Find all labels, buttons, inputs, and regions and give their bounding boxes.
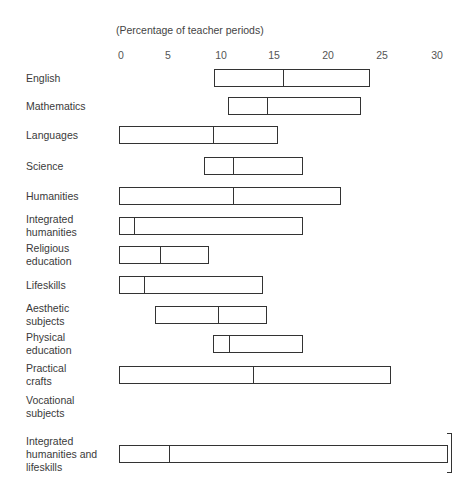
range-box	[213, 335, 303, 353]
range-box	[119, 445, 448, 463]
x-tick-label: 15	[268, 49, 280, 61]
range-box	[214, 69, 370, 87]
row-label: Vocational subjects	[26, 394, 106, 420]
range-box	[119, 126, 278, 144]
row-label: Physical education	[26, 331, 106, 357]
median-line	[218, 307, 219, 323]
row-label: Languages	[26, 129, 106, 142]
range-box	[119, 187, 341, 205]
range-box	[119, 366, 391, 384]
median-line	[144, 277, 145, 293]
range-box	[119, 217, 303, 235]
row-label: Integrated humanities and lifeskills	[26, 435, 106, 474]
median-line	[267, 98, 268, 114]
row-label: Lifeskills	[26, 279, 106, 292]
median-line	[233, 158, 234, 174]
median-line	[213, 127, 214, 143]
range-box	[119, 246, 209, 264]
median-line	[160, 247, 161, 263]
range-box	[119, 276, 263, 294]
row-label: Aesthetic subjects	[26, 302, 106, 328]
median-line	[169, 446, 170, 462]
axis-subtitle: (Percentage of teacher periods)	[116, 24, 264, 36]
row-label: Mathematics	[26, 100, 106, 113]
row-label: Science	[26, 160, 106, 173]
range-box	[155, 306, 267, 324]
range-box	[228, 97, 361, 115]
x-tick-label: 30	[431, 49, 443, 61]
row-label: English	[26, 72, 106, 85]
x-tick-label: 5	[165, 49, 171, 61]
range-box	[204, 157, 304, 175]
median-line	[134, 218, 135, 234]
row-label: Practical crafts	[26, 362, 106, 388]
x-tick-label: 0	[118, 49, 124, 61]
median-line	[233, 188, 234, 204]
row-label: Religious education	[26, 242, 106, 268]
row-label: Humanities	[26, 190, 106, 203]
row-label: Integrated humanities	[26, 213, 106, 239]
x-tick-label: 25	[376, 49, 388, 61]
x-tick-label: 10	[215, 49, 227, 61]
median-line	[253, 367, 254, 383]
bracket-annotation	[447, 433, 452, 473]
median-line	[229, 336, 230, 352]
median-line	[283, 70, 284, 86]
x-tick-label: 20	[322, 49, 334, 61]
